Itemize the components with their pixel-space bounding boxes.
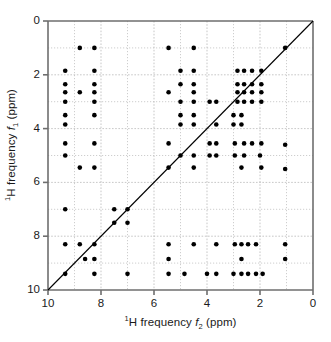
data-point [214, 99, 219, 104]
data-point [207, 141, 212, 146]
data-point [178, 122, 183, 127]
data-point [191, 90, 196, 95]
data-point [250, 90, 255, 95]
data-point [214, 242, 219, 247]
data-point [239, 113, 244, 118]
data-point [191, 165, 196, 170]
data-point [166, 242, 171, 247]
data-point [191, 46, 196, 51]
data-point [250, 99, 255, 104]
data-point [92, 257, 97, 262]
data-point [92, 272, 97, 277]
data-point [191, 113, 196, 118]
data-point [205, 272, 210, 277]
data-point [63, 207, 68, 212]
data-point [78, 46, 83, 51]
data-point [239, 272, 244, 277]
data-point [92, 46, 97, 51]
data-point [233, 141, 238, 146]
data-point [231, 122, 236, 127]
data-point [191, 82, 196, 87]
data-point [259, 90, 264, 95]
data-point [63, 113, 68, 118]
data-point [83, 257, 88, 262]
data-point [235, 99, 240, 104]
data-point [242, 141, 247, 146]
data-point [166, 141, 171, 146]
data-point [259, 141, 264, 146]
data-point [92, 90, 97, 95]
data-point [258, 153, 263, 158]
data-point [242, 90, 247, 95]
data-point [178, 113, 183, 118]
data-point [112, 207, 117, 212]
data-point [78, 90, 83, 95]
data-point [233, 153, 238, 158]
data-point [283, 142, 288, 147]
data-point [78, 242, 83, 247]
data-point [191, 99, 196, 104]
data-point [254, 272, 259, 277]
data-point [246, 272, 251, 277]
data-point [242, 68, 247, 73]
nmr-cosy-spectrum-figure: 1H frequency f1 (ppm) 1H frequency f2 (p… [0, 0, 331, 342]
data-point [125, 272, 130, 277]
data-point [283, 257, 288, 262]
data-point [63, 141, 68, 146]
data-point [259, 82, 264, 87]
data-point [178, 153, 183, 158]
data-point [259, 68, 264, 73]
data-point [239, 122, 244, 127]
data-point [239, 242, 244, 247]
data-point [231, 113, 236, 118]
data-point [239, 257, 244, 262]
data-point [92, 242, 97, 247]
data-point [166, 165, 171, 170]
data-point [191, 153, 196, 158]
data-point [178, 99, 183, 104]
data-point [214, 141, 219, 146]
data-point [250, 68, 255, 73]
data-point [250, 82, 255, 87]
plot-area [0, 0, 331, 342]
data-point [233, 242, 238, 247]
data-point [63, 242, 68, 247]
data-point [283, 242, 288, 247]
data-point [92, 141, 97, 146]
data-point [63, 99, 68, 104]
data-point [178, 82, 183, 87]
data-point [112, 220, 117, 225]
data-point [250, 141, 255, 146]
data-point [283, 46, 288, 51]
data-point [78, 165, 83, 170]
data-point [166, 272, 171, 277]
data-point [125, 207, 130, 212]
data-point [166, 46, 171, 51]
data-point [92, 113, 97, 118]
data-point [63, 90, 68, 95]
data-point [239, 165, 244, 170]
data-point [125, 220, 130, 225]
data-point [259, 165, 264, 170]
data-point [214, 153, 219, 158]
data-point [92, 68, 97, 73]
data-point [178, 68, 183, 73]
data-point [214, 122, 219, 127]
data-point [191, 242, 196, 247]
data-point [92, 99, 97, 104]
data-point [207, 153, 212, 158]
data-point [260, 272, 265, 277]
data-point [214, 272, 219, 277]
data-point [182, 272, 187, 277]
data-point [259, 99, 264, 104]
data-point [242, 82, 247, 87]
data-point [63, 272, 68, 277]
data-point [242, 153, 247, 158]
data-point [235, 68, 240, 73]
data-point [63, 153, 68, 158]
data-point [166, 257, 171, 262]
data-point [191, 122, 196, 127]
data-point [242, 99, 247, 104]
data-point [235, 82, 240, 87]
data-point [191, 68, 196, 73]
